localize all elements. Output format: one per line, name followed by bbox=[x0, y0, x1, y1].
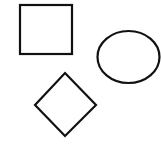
diamond-shape bbox=[35, 73, 96, 136]
diagram-svg bbox=[0, 0, 161, 146]
shapes-diagram bbox=[0, 0, 161, 146]
ellipse-shape bbox=[98, 31, 160, 83]
square-shape bbox=[20, 5, 72, 54]
